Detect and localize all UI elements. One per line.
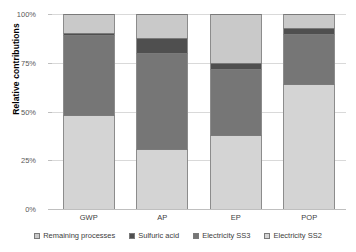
bar-segment-ep-remaining-processes bbox=[210, 14, 262, 63]
legend-label: Remaining processes bbox=[43, 231, 115, 240]
legend-label: Electricity SS2 bbox=[273, 231, 321, 240]
x-tick-label-gwp: GWP bbox=[80, 213, 98, 222]
plot-area: 0%25%50%75%100% bbox=[52, 14, 346, 209]
bar-group-pop bbox=[283, 14, 335, 209]
bar-group-ap bbox=[136, 14, 188, 209]
legend-item-electricity-ss3[interactable]: Electricity SS3 bbox=[193, 231, 250, 240]
relative-contributions-chart: Relative contributions 0%25%50%75%100% G… bbox=[0, 0, 356, 252]
bar-segment-gwp-remaining-processes bbox=[63, 14, 115, 33]
bar-segment-ap-electricity-ss3 bbox=[136, 53, 188, 149]
y-tick-mark bbox=[48, 160, 52, 161]
bar-segment-ep-electricity-ss3 bbox=[210, 69, 262, 135]
bar-segment-ap-remaining-processes bbox=[136, 14, 188, 38]
legend-swatch-icon bbox=[264, 233, 270, 239]
bar-segment-ep-electricity-ss2 bbox=[210, 135, 262, 209]
y-tick-mark bbox=[48, 63, 52, 64]
x-tick-label-pop: POP bbox=[301, 213, 317, 222]
bar-segment-ap-electricity-ss2 bbox=[136, 149, 188, 209]
y-tick-mark bbox=[48, 14, 52, 15]
bar-segment-pop-electricity-ss3 bbox=[283, 34, 335, 85]
x-tick-label-ap: AP bbox=[157, 213, 167, 222]
bar-stack bbox=[136, 14, 188, 209]
legend-item-sulfuric-acid[interactable]: Sulfuric acid bbox=[129, 231, 179, 240]
legend-label: Electricity SS3 bbox=[202, 231, 250, 240]
bar-group-ep bbox=[210, 14, 262, 209]
y-tick-label: 100% bbox=[0, 10, 36, 19]
bar-group-gwp bbox=[63, 14, 115, 209]
legend-item-remaining-processes[interactable]: Remaining processes bbox=[34, 231, 115, 240]
x-tick-label-ep: EP bbox=[231, 213, 241, 222]
y-tick-label: 25% bbox=[0, 156, 36, 165]
chart-legend: Remaining processesSulfuric acidElectric… bbox=[0, 231, 356, 240]
bar-segment-gwp-electricity-ss2 bbox=[63, 115, 115, 209]
bar-stack bbox=[63, 14, 115, 209]
legend-swatch-icon bbox=[34, 233, 40, 239]
bar-segment-ap-sulfuric-acid bbox=[136, 38, 188, 53]
bar-stack bbox=[283, 14, 335, 209]
y-tick-mark bbox=[48, 112, 52, 113]
y-tick-mark bbox=[48, 209, 52, 210]
y-tick-label: 50% bbox=[0, 107, 36, 116]
legend-swatch-icon bbox=[129, 233, 135, 239]
bar-stack bbox=[210, 14, 262, 209]
legend-item-electricity-ss2[interactable]: Electricity SS2 bbox=[264, 231, 321, 240]
legend-label: Sulfuric acid bbox=[138, 231, 179, 240]
legend-swatch-icon bbox=[193, 233, 199, 239]
y-tick-label: 0% bbox=[0, 205, 36, 214]
bar-segment-pop-electricity-ss2 bbox=[283, 84, 335, 209]
bar-segment-gwp-electricity-ss3 bbox=[63, 35, 115, 115]
bar-segment-pop-remaining-processes bbox=[283, 14, 335, 28]
y-tick-label: 75% bbox=[0, 58, 36, 67]
gridline-0% bbox=[52, 209, 346, 210]
